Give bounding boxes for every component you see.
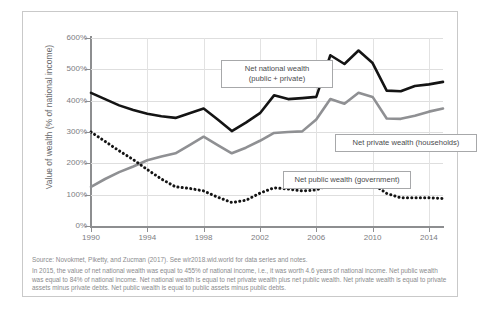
y-tick-300pct: 300%: [53, 128, 87, 136]
y-tick-mark: [85, 132, 91, 133]
x-tick-1998: 1998: [184, 233, 224, 242]
y-tick-500pct: 500%: [53, 65, 87, 73]
callout-national-line1: Net national wealth: [228, 64, 326, 74]
y-tick-0pct: 0%: [53, 222, 87, 230]
y-tick-400pct: 400%: [53, 97, 87, 105]
y-tick-100pct: 100%: [53, 191, 87, 199]
x-tick-mark: [316, 228, 317, 232]
callout-net-private-wealth: Net private wealth (households): [335, 134, 477, 152]
x-tick-mark: [260, 228, 261, 232]
y-tick-mark: [85, 101, 91, 102]
source-line: Source: Novokmet, Piketty, and Zucman (2…: [32, 255, 450, 264]
x-tick-2014: 2014: [409, 233, 449, 242]
x-tick-mark: [429, 228, 430, 232]
y-tick-mark: [85, 195, 91, 196]
note-line: In 2015, the value of net national wealt…: [32, 267, 450, 293]
y-axis-tick-labels: 0%100%200%300%400%500%600%: [51, 12, 87, 252]
y-tick-200pct: 200%: [53, 159, 87, 167]
x-tick-2002: 2002: [240, 233, 280, 242]
callout-net-national-wealth: Net national wealth (public + private): [221, 60, 333, 88]
x-axis-line: [90, 226, 444, 228]
x-tick-2006: 2006: [296, 233, 336, 242]
x-tick-2010: 2010: [353, 233, 393, 242]
footnote: Source: Novokmet, Piketty, and Zucman (2…: [23, 255, 459, 293]
x-tick-1994: 1994: [127, 233, 167, 242]
callout-net-public-wealth: Net public wealth (government): [283, 171, 411, 189]
y-tick-600pct: 600%: [53, 34, 87, 42]
x-axis-tick-labels: 1990199419982002200620102014: [23, 233, 459, 247]
x-tick-mark: [373, 228, 374, 232]
plot-container: Value of wealth (% of national income) 0…: [23, 12, 459, 252]
x-tick-mark: [147, 228, 148, 232]
y-tick-mark: [85, 69, 91, 70]
y-tick-mark: [85, 163, 91, 164]
y-tick-mark: [85, 226, 91, 227]
chart-figure: Value of wealth (% of national income) 0…: [22, 11, 458, 297]
x-tick-mark: [204, 228, 205, 232]
callout-national-line2: (public + private): [228, 74, 326, 84]
x-tick-1990: 1990: [71, 233, 111, 242]
y-tick-mark: [85, 38, 91, 39]
x-tick-mark: [91, 228, 92, 232]
